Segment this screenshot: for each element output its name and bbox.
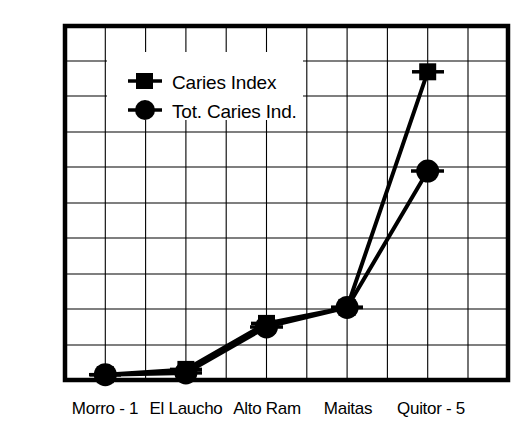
square-marker-icon bbox=[136, 73, 153, 89]
x-axis-label-group: Morro - 1 El Laucho Alto Ram Maitas Quit… bbox=[60, 399, 512, 429]
x-tick-label-maitas: Maitas bbox=[324, 399, 372, 419]
x-tick-label-quitor-5: Quitor - 5 bbox=[397, 399, 465, 419]
legend-label-caries-index: Caries Index bbox=[172, 72, 277, 93]
x-tick-label-alto-ram: Alto Ram bbox=[233, 399, 301, 419]
circle-marker-icon bbox=[135, 100, 155, 120]
plot-area: Caries Index Tot. Caries Ind. bbox=[0, 0, 516, 437]
x-tick-label-morro-1: Morro - 1 bbox=[72, 399, 138, 419]
legend-label-tot-caries-ind: Tot. Caries Ind. bbox=[172, 101, 297, 122]
x-tick-label-el-laucho: El Laucho bbox=[150, 399, 223, 419]
chart-container: 100 80 60 40 20 0 bbox=[0, 0, 516, 437]
